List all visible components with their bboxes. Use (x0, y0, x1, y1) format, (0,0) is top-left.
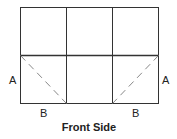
grid-outline (21, 8, 159, 104)
front-side-diagram: A A B B Front Side (0, 0, 177, 139)
fold-lines (21, 56, 159, 104)
label-right-a: A (162, 74, 170, 86)
label-left-b: B (40, 107, 47, 119)
caption: Front Side (62, 121, 116, 133)
label-left-a: A (9, 74, 17, 86)
right-diagonal-fold (113, 56, 159, 104)
label-right-b: B (132, 107, 139, 119)
left-diagonal-fold (21, 56, 67, 104)
